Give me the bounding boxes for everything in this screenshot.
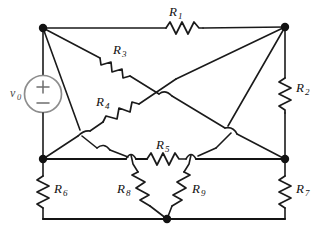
- label-R4-letter: R: [95, 94, 104, 109]
- node-dots-group: [39, 23, 289, 223]
- wire-top-rail: [43, 27, 285, 28]
- label-R7-subscript: 7: [305, 188, 310, 198]
- label-R5: R 5: [155, 137, 170, 154]
- label-v0-subscript: 0: [17, 92, 22, 102]
- label-R2: R 2: [295, 80, 310, 97]
- node-top-right: [281, 23, 289, 31]
- label-R2-subscript: 2: [305, 87, 310, 97]
- resistor-R8-symbol: [131, 155, 167, 219]
- resistor-R7-symbol: [279, 159, 291, 219]
- label-R1-subscript: 1: [178, 11, 183, 21]
- label-R1: R 1: [168, 4, 183, 21]
- label-R6-letter: R: [53, 181, 62, 196]
- label-R5-letter: R: [155, 137, 164, 152]
- label-R7: R 7: [295, 181, 310, 198]
- label-R7-letter: R: [295, 181, 304, 196]
- label-R9: R 9: [191, 181, 206, 198]
- wire-middle-rail: [43, 153, 285, 165]
- label-R3-subscript: 3: [121, 49, 127, 59]
- label-voltage-source: v 0: [10, 86, 22, 102]
- label-R6-subscript: 6: [63, 188, 68, 198]
- label-R1-letter: R: [168, 4, 177, 19]
- resistor-R2-symbol: [279, 78, 291, 113]
- label-R3: R 3: [112, 42, 127, 59]
- branch-R3-diagonal: [43, 28, 285, 159]
- circuit-diagram: R 1 R 2 R 3 R 4 R 5 R 6 R 7: [0, 0, 323, 234]
- voltage-source-symbol: [25, 76, 62, 113]
- label-R8-letter: R: [116, 181, 125, 196]
- node-bottom-center: [163, 215, 171, 223]
- label-R4: R 4: [95, 94, 110, 111]
- label-R4-subscript: 4: [105, 101, 110, 111]
- label-R2-letter: R: [295, 80, 304, 95]
- label-R6: R 6: [53, 181, 68, 198]
- resistor-R1-symbol: [166, 22, 203, 34]
- label-R3-letter: R: [112, 42, 121, 57]
- label-v0-letter: v: [10, 86, 16, 100]
- schematic-canvas: R 1 R 2 R 3 R 4 R 5 R 6 R 7: [0, 0, 323, 234]
- label-R9-letter: R: [191, 181, 200, 196]
- label-R5-subscript: 5: [165, 144, 170, 154]
- node-right-middle: [281, 155, 289, 163]
- resistor-R6-symbol: [37, 159, 49, 219]
- label-R8: R 8: [116, 181, 131, 198]
- node-top-left: [39, 24, 47, 32]
- node-left-middle: [39, 155, 47, 163]
- resistor-R9-symbol: [167, 155, 191, 219]
- label-R9-subscript: 9: [201, 188, 206, 198]
- label-R8-subscript: 8: [126, 188, 131, 198]
